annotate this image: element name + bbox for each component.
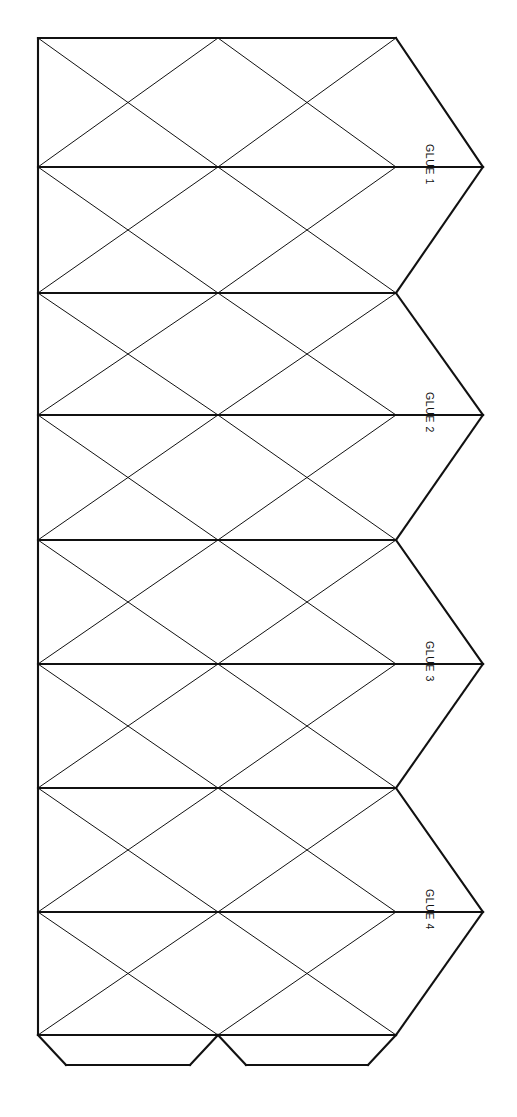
bottom-tab-2-left-edge bbox=[218, 1035, 246, 1065]
bottom-tab-1-left-edge bbox=[38, 1035, 66, 1065]
glue-tab-3-lower-edge bbox=[396, 664, 483, 788]
glue-tab-1-upper-edge bbox=[396, 38, 483, 167]
bottom-tab-2-right-edge bbox=[368, 1035, 396, 1065]
icosahedron-net-diagram bbox=[0, 0, 517, 1117]
papercraft-sheet: GLUE 1GLUE 2GLUE 3GLUE 4 bbox=[0, 0, 517, 1117]
glue-tab-3-upper-edge bbox=[396, 540, 483, 664]
glue-tab-2-upper-edge bbox=[396, 293, 483, 415]
bottom-tab-1-right-edge bbox=[190, 1035, 218, 1065]
net-line-group bbox=[38, 38, 483, 1065]
glue-tab-2-lower-edge bbox=[396, 415, 483, 540]
glue-tab-4-upper-edge bbox=[396, 788, 483, 912]
glue-tab-4-lower-edge bbox=[396, 912, 483, 1035]
glue-tab-1-lower-edge bbox=[396, 167, 483, 293]
